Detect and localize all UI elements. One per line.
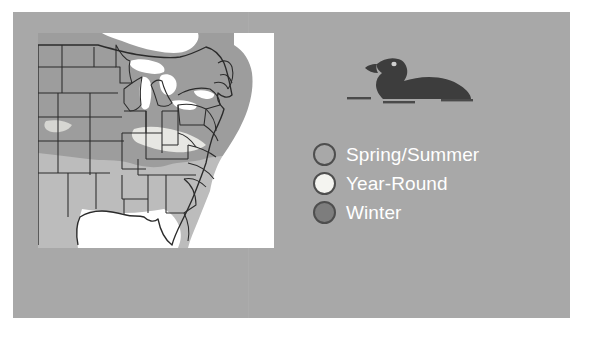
loon-eye — [391, 62, 396, 66]
legend-swatch-year-round — [313, 172, 336, 195]
legend-item-winter: Winter — [313, 198, 553, 227]
gulf-of-mexico — [77, 209, 181, 248]
loon-bill — [365, 64, 378, 73]
water-line-center — [383, 101, 415, 103]
legend-swatch-winter — [313, 201, 336, 224]
range-map-figure: Spring/Summer Year-Round Winter — [0, 0, 590, 347]
legend-label-winter: Winter — [346, 203, 402, 222]
loon-body-shape — [376, 58, 471, 99]
legend-swatch-spring-summer — [313, 143, 336, 166]
loon-silhouette-icon — [345, 42, 475, 112]
legend-item-spring-summer: Spring/Summer — [313, 140, 553, 169]
legend-label-spring-summer: Spring/Summer — [346, 145, 479, 164]
water-line-left — [347, 97, 371, 99]
map-container — [38, 33, 274, 248]
legend-label-year-round: Year-Round — [346, 174, 448, 193]
legend-item-year-round: Year-Round — [313, 169, 553, 198]
bird-illustration — [345, 42, 475, 112]
range-legend: Spring/Summer Year-Round Winter — [313, 140, 553, 227]
united-states-range-map — [38, 33, 274, 248]
water-line-right — [441, 99, 473, 101]
